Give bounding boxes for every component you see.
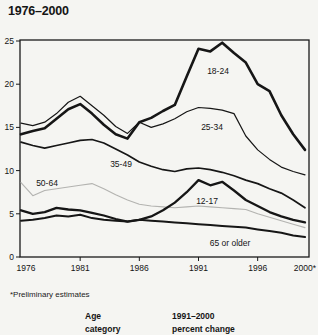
footnote-preliminary-estimates: *Preliminary estimates (10, 290, 90, 299)
series-line-65-or-older (21, 215, 305, 237)
y-axis-tick-label: 25 (5, 36, 15, 46)
series-label-50-64: 50-64 (36, 178, 58, 188)
x-axis-tick-label: 1986 (130, 263, 149, 273)
x-axis-tick-label: 1976 (17, 263, 36, 273)
x-axis-tick-label: 2000* (294, 263, 317, 273)
series-label-25-34: 25-34 (201, 122, 223, 132)
table-header-age-category: Age category (85, 310, 120, 335)
y-axis-tick-label: 0 (9, 252, 14, 262)
y-axis-tick-label: 5 (9, 209, 14, 219)
series-line-25-34 (21, 96, 305, 175)
y-axis-tick-label: 20 (5, 79, 15, 89)
x-axis-tick-label: 1991 (189, 263, 208, 273)
series-line-18-24 (21, 43, 305, 150)
x-axis-tick-label: 1996 (248, 263, 267, 273)
line-chart: 0510152025197619811986199119962000*18-24… (0, 0, 318, 285)
x-axis-tick-label: 1981 (71, 263, 90, 273)
plot-frame (20, 40, 309, 257)
series-label-35-49: 35-49 (110, 159, 132, 169)
y-axis-tick-label: 15 (5, 122, 15, 132)
series-label-18-24: 18-24 (207, 66, 229, 76)
table-header-percent-line2: percent change (172, 323, 235, 335)
table-header-age-line1: Age (85, 310, 120, 323)
table-header-percent-line1: 1991–2000 (172, 310, 235, 323)
series-label-65-or-older: 65 or older (210, 238, 251, 248)
series-line-35-49 (21, 140, 305, 208)
y-axis-tick-label: 10 (5, 166, 15, 176)
series-label-12-17: 12-17 (196, 196, 218, 206)
table-header-age-line2: category (85, 323, 120, 335)
table-header-percent-change: 1991–2000 percent change (172, 310, 235, 335)
